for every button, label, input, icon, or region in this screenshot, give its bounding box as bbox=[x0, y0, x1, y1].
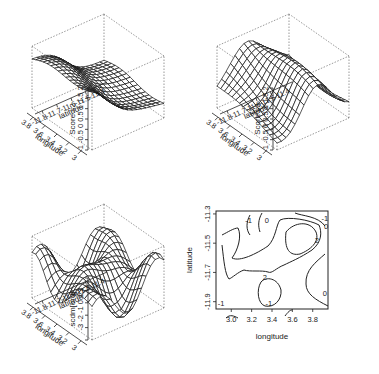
longitude-tick bbox=[42, 316, 45, 319]
contour-label: -1 bbox=[245, 216, 252, 225]
longitude-tick bbox=[239, 134, 242, 137]
x-tick-label: 3.6 bbox=[287, 315, 297, 324]
figure: -1 -0.5 0 0.5 1 1.5 2Score s233.23.43.63… bbox=[0, 0, 379, 374]
contour-label: 0 bbox=[265, 216, 269, 225]
x-tick-label: 3.2 bbox=[246, 315, 256, 324]
contour-label: 2 bbox=[263, 273, 267, 282]
y-tick-label: -11.5 bbox=[203, 235, 212, 252]
box-edge bbox=[289, 14, 349, 56]
y-tick-label: -11.3 bbox=[203, 206, 212, 223]
y-tick-label: -11.7 bbox=[203, 264, 212, 281]
x-axis-label: longitude bbox=[256, 332, 289, 341]
contour-plot: -10-10220-1-1 3.03.23.43.63.8longitude-1… bbox=[185, 206, 328, 341]
surface-plot-score-s3: -1 -0.5 0 0.5 1 1.5 2Score s333.23.43.63… bbox=[205, 14, 349, 163]
box-edge bbox=[104, 14, 164, 56]
longitude-tick bbox=[54, 134, 57, 137]
longitude-tick bbox=[227, 126, 230, 129]
longitude-tick bbox=[78, 341, 81, 344]
x-tick-label: 3.0 bbox=[226, 315, 236, 324]
longitude-tick-label: 3 bbox=[255, 153, 264, 163]
y-tick-label: -11.9 bbox=[203, 293, 212, 310]
surface-plot-score-s2: -1 -0.5 0 0.5 1 1.5 2Score s233.23.43.63… bbox=[20, 14, 164, 163]
box-edge bbox=[92, 118, 164, 150]
contour-label: -1 bbox=[218, 299, 225, 308]
longitude-tick bbox=[54, 324, 57, 327]
longitude-tick-label: 3 bbox=[70, 343, 79, 353]
contour-lines bbox=[222, 213, 328, 318]
x-tick-label: 3.8 bbox=[308, 315, 318, 324]
longitude-tick bbox=[251, 142, 254, 145]
contour-label: 2 bbox=[315, 236, 319, 245]
y-axis-label: latitude bbox=[185, 247, 194, 273]
longitude-tick-label: 3 bbox=[70, 153, 79, 163]
box-edge bbox=[32, 14, 104, 46]
longitude-tick bbox=[66, 142, 69, 145]
surface-plot-scdm: -3 -2 -1 0 1 2scdm[ord]33.23.43.63.8long… bbox=[20, 204, 164, 353]
longitude-tick bbox=[66, 332, 69, 335]
x-tick-label: 3.4 bbox=[267, 315, 277, 324]
longitude-tick bbox=[42, 126, 45, 129]
contour-label: 0 bbox=[323, 289, 327, 298]
contour-label: 0 bbox=[324, 222, 328, 231]
contour-label: -1 bbox=[266, 299, 273, 308]
